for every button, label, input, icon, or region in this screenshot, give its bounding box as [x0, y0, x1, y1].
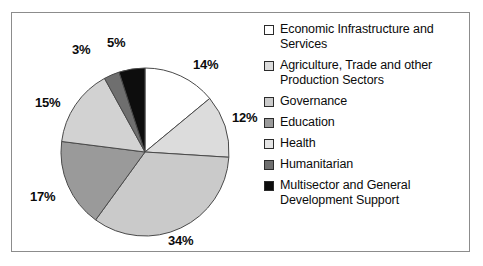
legend-item[interactable]: Economic Infrastructure and Services [264, 22, 469, 52]
legend-item[interactable]: Humanitarian [264, 157, 469, 172]
legend-item[interactable]: Health [264, 136, 469, 151]
pie-chart-svg [12, 13, 262, 253]
pie-slice-percentage-label: 15% [35, 95, 60, 110]
legend-swatch-icon [264, 160, 274, 170]
legend-item-label: Agriculture, Trade and other Production … [280, 58, 469, 88]
pie-slices-group [61, 68, 229, 236]
legend-item-label: Governance [280, 94, 347, 109]
pie-slice-percentage-label: 12% [232, 110, 257, 125]
legend-swatch-icon [264, 139, 274, 149]
pie-chart-figure: 14%12%34%17%15%3%5% Economic Infrastruct… [0, 0, 483, 266]
pie-slice-percentage-label: 5% [107, 35, 125, 50]
legend-item-label: Humanitarian [280, 157, 353, 172]
legend-swatch-icon [264, 118, 274, 128]
pie-chart-area: 14%12%34%17%15%3%5% [12, 13, 262, 253]
legend-item[interactable]: Multisector and General Development Supp… [264, 178, 469, 208]
pie-slice-percentage-label: 3% [72, 42, 90, 57]
legend-swatch-icon [264, 61, 274, 71]
legend-swatch-icon [264, 181, 274, 191]
legend-item-label: Education [280, 115, 335, 130]
pie-slice-percentage-label: 34% [168, 233, 193, 248]
legend-item[interactable]: Education [264, 115, 469, 130]
pie-slice-percentage-label: 17% [30, 189, 55, 204]
pie-slice-percentage-label: 14% [193, 57, 218, 72]
legend-item-label: Multisector and General Development Supp… [280, 178, 469, 208]
figure-frame: 14%12%34%17%15%3%5% Economic Infrastruct… [11, 12, 470, 252]
legend-swatch-icon [264, 97, 274, 107]
legend-swatch-icon [264, 25, 274, 35]
legend-item-label: Economic Infrastructure and Services [280, 22, 469, 52]
chart-legend: Economic Infrastructure and Services Agr… [264, 22, 469, 214]
legend-item[interactable]: Governance [264, 94, 469, 109]
legend-item-label: Health [280, 136, 316, 151]
legend-item[interactable]: Agriculture, Trade and other Production … [264, 58, 469, 88]
